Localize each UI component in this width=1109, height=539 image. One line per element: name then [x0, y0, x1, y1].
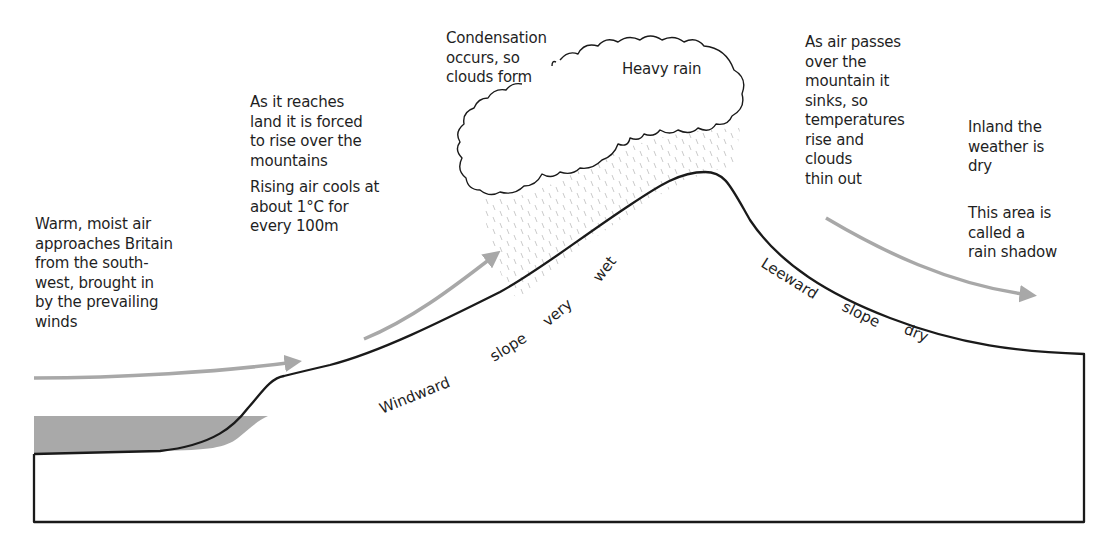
windward-word-2: slope — [487, 329, 530, 365]
label-reaches-land: As it reaches land it is forced to rise … — [250, 93, 363, 171]
label-air-passes-over: As air passes over the mountain it sinks… — [805, 33, 905, 189]
label-condensation: Condensation occurs, so clouds form — [446, 29, 547, 88]
label-rain-shadow: This area is called a rain shadow — [968, 204, 1057, 263]
label-rising-air-cools: Rising air cools at about 1°C for every … — [250, 178, 379, 237]
leeward-word-2: slope — [839, 297, 883, 331]
label-warm-moist-air: Warm, moist air approaches Britain from … — [35, 215, 173, 332]
label-inland-dry: Inland the weather is dry — [968, 118, 1044, 177]
windward-word-1: Windward — [377, 373, 453, 418]
arrow-prevailing-wind — [34, 362, 295, 378]
label-heavy-rain: Heavy rain — [622, 60, 701, 80]
windward-word-4: wet — [589, 253, 620, 286]
leeward-word-3: dry — [902, 320, 932, 346]
sea-area — [34, 416, 268, 454]
relief-rainfall-diagram: Windward slope very wet Leeward slope dr… — [0, 0, 1109, 539]
windward-word-3: very — [539, 295, 576, 330]
